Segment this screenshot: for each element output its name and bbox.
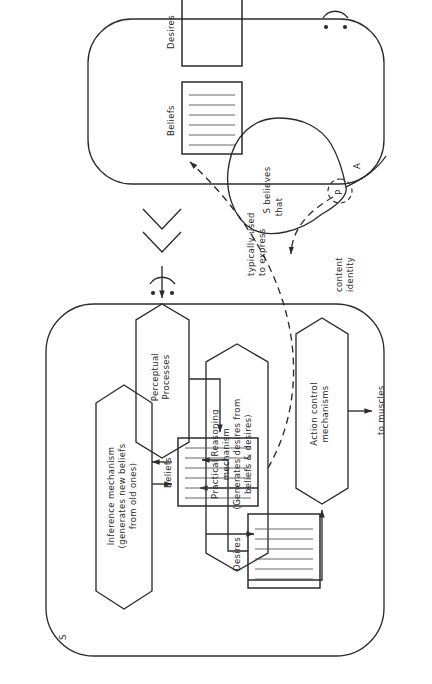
- arrow-desires-to-action: [248, 510, 322, 580]
- speaker-desires-label: Desires: [232, 537, 243, 571]
- speaker-label: S: [58, 634, 69, 640]
- speaker-stimulus-feathers: [143, 209, 181, 252]
- diagram-vector-layer: [0, 0, 432, 684]
- hearer-beliefs-box: [182, 82, 242, 154]
- hearer-beliefs-hatch: [189, 95, 235, 145]
- hearer-smile-arc: [323, 11, 348, 18]
- arrow-typically-used-to-express: [291, 197, 333, 254]
- practical-reasoning-label: Practical Reasoning mechanism (Generates…: [210, 364, 254, 544]
- hearer-boundary: [88, 19, 384, 184]
- utterance-line2: that: [274, 185, 285, 229]
- perceptual-processes-label: Perceptual Processes: [150, 322, 172, 432]
- speaker-desires-hatch: [255, 529, 313, 579]
- action-control-label: Action control mechanisms: [309, 344, 331, 484]
- to-muscles-label: to muscles: [376, 385, 387, 435]
- content-identity-label-line2: identity: [345, 257, 356, 292]
- speaker-desires-box: [248, 514, 320, 588]
- typically-used-label-line2: to express: [257, 228, 268, 276]
- speaker-beliefs-label: Beliefs: [163, 457, 174, 488]
- hearer-beliefs-label: Beliefs: [166, 105, 177, 136]
- hearer-desires-box: [182, 0, 242, 66]
- content-identity-label-line1: content: [334, 257, 345, 292]
- hearer-label: A: [352, 163, 363, 169]
- diagram-root: S A Inference mechanism (generates new b…: [0, 0, 432, 684]
- typically-used-label-line1: typically used: [246, 212, 257, 276]
- utterance-proposition: P: [334, 189, 345, 195]
- figure-canvas: S A Inference mechanism (generates new b…: [0, 0, 432, 684]
- utterance-line1: S believes: [262, 151, 273, 229]
- hearer-desires-label: Desires: [166, 15, 177, 49]
- inference-mechanism-label: Inference mechanism (generates new belie…: [106, 416, 139, 576]
